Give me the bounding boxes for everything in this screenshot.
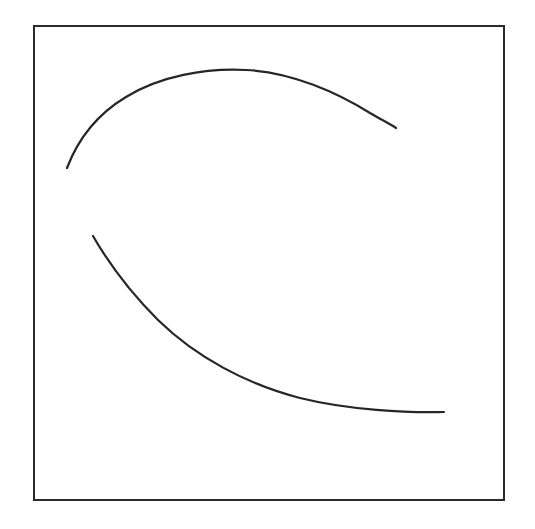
arc-diagram-svg <box>0 0 535 529</box>
figure-canvas <box>0 0 535 529</box>
border-frame <box>34 26 504 500</box>
